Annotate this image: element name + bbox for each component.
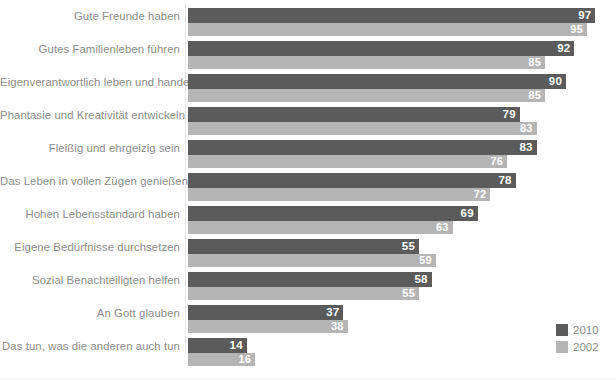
chart-row: Eigenverantwortlich leben und handeln908… — [0, 74, 616, 107]
bar-2002: 38 — [188, 320, 348, 333]
bar-value-label: 16 — [239, 354, 252, 366]
bar-group: 9285 — [188, 41, 616, 74]
bar-2010: 14 — [188, 338, 247, 353]
chart-row: Das tun, was die anderen auch tun1416 — [0, 338, 616, 371]
category-label: Phantasie und Kreativität entwickeln — [0, 109, 180, 122]
category-label: Das tun, was die anderen auch tun — [0, 340, 180, 353]
bar-value-label: 83 — [519, 142, 532, 154]
category-label: Gute Freunde haben — [0, 10, 180, 23]
bar-group: 8376 — [188, 140, 616, 173]
bar-2010: 90 — [188, 74, 566, 89]
bar-group: 5855 — [188, 272, 616, 305]
bar-2002: 85 — [188, 56, 545, 69]
bar-value-label: 95 — [570, 24, 583, 36]
legend-swatch-icon — [556, 341, 568, 353]
bar-group: 7983 — [188, 107, 616, 140]
bar-2002: 95 — [188, 23, 587, 36]
bar-value-label: 78 — [498, 175, 511, 187]
bar-value-label: 55 — [402, 288, 415, 300]
bar-2010: 79 — [188, 107, 520, 122]
chart-row: Sozial Benachteiligten helfen5855 — [0, 272, 616, 305]
horizontal-bar-chart: Gute Freunde haben9795Gutes Familienlebe… — [0, 0, 616, 380]
category-label: Eigene Bedürfnisse durchsetzen — [0, 241, 180, 254]
bar-group: 3738 — [188, 305, 616, 338]
legend-item-2002[interactable]: 2002 — [556, 339, 608, 354]
chart-legend: 20102002 — [556, 322, 608, 356]
bar-group: 1416 — [188, 338, 616, 371]
bar-value-label: 58 — [414, 274, 427, 286]
bar-2010: 37 — [188, 305, 343, 320]
chart-rows: Gute Freunde haben9795Gutes Familienlebe… — [0, 8, 616, 371]
bar-2010: 92 — [188, 41, 574, 56]
bar-value-label: 76 — [491, 156, 504, 168]
legend-swatch-icon — [556, 324, 568, 336]
bar-2002: 76 — [188, 155, 507, 168]
bar-2010: 58 — [188, 272, 432, 287]
bar-2010: 69 — [188, 206, 478, 221]
bar-2002: 55 — [188, 287, 419, 300]
chart-row: An Gott glauben3738 — [0, 305, 616, 338]
bar-value-label: 37 — [326, 307, 339, 319]
chart-row: Phantasie und Kreativität entwickeln7983 — [0, 107, 616, 140]
chart-row: Gute Freunde haben9795 — [0, 8, 616, 41]
bar-group: 9085 — [188, 74, 616, 107]
bar-group: 6963 — [188, 206, 616, 239]
bar-value-label: 38 — [331, 321, 344, 333]
bar-value-label: 92 — [557, 43, 570, 55]
bar-value-label: 72 — [474, 189, 487, 201]
bar-2002: 63 — [188, 221, 453, 234]
bar-value-label: 63 — [436, 222, 449, 234]
legend-item-2010[interactable]: 2010 — [556, 322, 608, 337]
category-label: Eigenverantwortlich leben und handeln — [0, 76, 180, 89]
bar-value-label: 85 — [528, 57, 541, 69]
bar-value-label: 55 — [402, 241, 415, 253]
category-label: Das Leben in vollen Zügen genießen — [0, 175, 180, 188]
bar-2010: 97 — [188, 8, 595, 23]
chart-row: Das Leben in vollen Zügen genießen7872 — [0, 173, 616, 206]
category-label: Sozial Benachteiligten helfen — [0, 274, 180, 287]
bar-2010: 78 — [188, 173, 516, 188]
bar-2002: 83 — [188, 122, 537, 135]
bar-2002: 72 — [188, 188, 490, 201]
bar-2010: 83 — [188, 140, 537, 155]
bar-value-label: 85 — [528, 90, 541, 102]
category-label: An Gott glauben — [0, 307, 180, 320]
legend-label: 2010 — [573, 324, 599, 336]
bar-value-label: 97 — [578, 10, 591, 22]
bar-value-label: 69 — [461, 208, 474, 220]
bar-value-label: 90 — [549, 76, 562, 88]
chart-row: Eigene Bedürfnisse durchsetzen5559 — [0, 239, 616, 272]
category-label: Gutes Familienleben führen — [0, 43, 180, 56]
bar-value-label: 83 — [520, 123, 533, 135]
bar-value-label: 14 — [230, 340, 243, 352]
bar-group: 5559 — [188, 239, 616, 272]
bar-value-label: 59 — [419, 255, 432, 267]
chart-row: Fleißig und ehrgeizig sein8376 — [0, 140, 616, 173]
bar-2002: 16 — [188, 353, 255, 366]
bar-group: 7872 — [188, 173, 616, 206]
bar-2010: 55 — [188, 239, 419, 254]
bar-group: 9795 — [188, 8, 616, 41]
category-label: Hohen Lebensstandard haben — [0, 208, 180, 221]
bar-value-label: 79 — [503, 109, 516, 121]
chart-row: Gutes Familienleben führen9285 — [0, 41, 616, 74]
category-label: Fleißig und ehrgeizig sein — [0, 142, 180, 155]
bar-2002: 85 — [188, 89, 545, 102]
legend-label: 2002 — [573, 341, 599, 353]
chart-row: Hohen Lebensstandard haben6963 — [0, 206, 616, 239]
bar-2002: 59 — [188, 254, 436, 267]
